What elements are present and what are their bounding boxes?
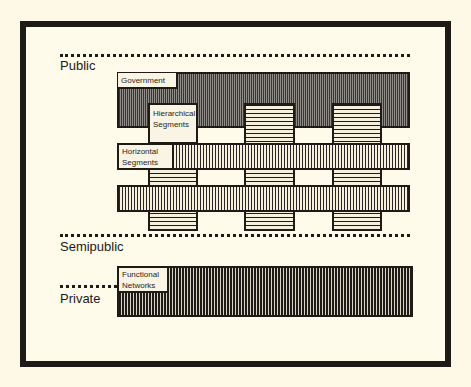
semipublic-tier-label: Semipublic (60, 240, 124, 254)
horizontal-segment-bar-2 (117, 185, 410, 212)
government-label: Government (118, 73, 178, 89)
government-label-text: Government (121, 76, 165, 85)
public-tier-label: Public (60, 59, 95, 73)
private-tier-label: Private (60, 292, 100, 306)
horizontal-label-line1: Horizontal (122, 146, 169, 157)
functional-label-line1: Functional (122, 269, 164, 280)
functional-label-line2: Networks (122, 280, 164, 291)
functional-networks-label: Functional Networks (117, 266, 169, 293)
hierarchical-label-line2: Segments (153, 119, 193, 130)
hierarchical-segments-label: Hierarchical Segments (148, 103, 198, 144)
semipublic-boundary-line (60, 234, 410, 237)
private-boundary-line (60, 285, 117, 288)
horizontal-segments-label: Horizontal Segments (117, 143, 174, 170)
public-boundary-line (60, 54, 410, 57)
horizontal-label-line2: Segments (122, 157, 169, 168)
hierarchical-label-line1: Hierarchical (153, 108, 193, 119)
